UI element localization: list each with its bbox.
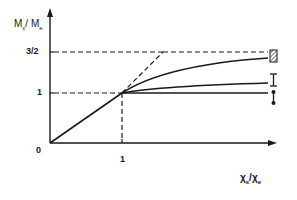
middle-curve xyxy=(122,83,268,93)
guide-ideal-slope xyxy=(122,52,163,93)
y-axis-arrow-icon xyxy=(47,8,53,17)
upper-curve xyxy=(122,58,268,93)
x-axis-label: χx/χe xyxy=(240,172,261,185)
i-beam-icon xyxy=(270,74,277,86)
dot-line-icon xyxy=(272,90,276,105)
y-tick-3-2: 3/2 xyxy=(26,46,39,56)
origin-label: 0 xyxy=(36,145,41,155)
y-tick-1: 1 xyxy=(37,87,42,97)
y-axis-label: Mx/ Me xyxy=(14,18,43,31)
hatched-box-icon xyxy=(270,50,277,62)
linear-segment xyxy=(50,93,122,143)
curves xyxy=(50,58,268,143)
legend-symbols xyxy=(270,50,277,105)
x-axis-arrow-icon xyxy=(268,140,277,146)
diagram-canvas xyxy=(0,0,297,200)
x-axis xyxy=(50,139,277,146)
y-axis xyxy=(47,8,54,143)
guide-lines xyxy=(54,52,268,139)
x-tick-1: 1 xyxy=(120,154,125,164)
